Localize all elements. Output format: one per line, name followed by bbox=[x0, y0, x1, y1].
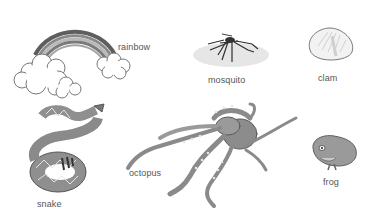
label-frog: frog bbox=[323, 177, 339, 187]
label-octopus: octopus bbox=[129, 168, 161, 178]
illustration-sheet: rainbow mosquito clam snake octopus frog bbox=[0, 0, 381, 218]
octopus-icon bbox=[128, 104, 296, 206]
mosquito-icon bbox=[193, 34, 269, 67]
frog-icon bbox=[313, 136, 356, 170]
label-snake: snake bbox=[37, 199, 62, 209]
label-clam: clam bbox=[318, 73, 337, 83]
snake-icon bbox=[30, 104, 104, 192]
label-mosquito: mosquito bbox=[208, 75, 245, 85]
rainbow-icon bbox=[14, 32, 130, 98]
clam-icon bbox=[309, 28, 352, 60]
label-rainbow: rainbow bbox=[118, 42, 150, 52]
